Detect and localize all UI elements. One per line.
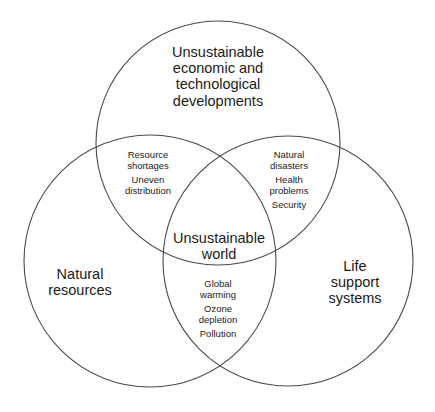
label-line: systems <box>328 290 381 306</box>
center-line: Unsustainable <box>173 230 265 246</box>
item-line: shortages <box>125 161 171 172</box>
center-line: world <box>173 246 265 262</box>
item-line: depletion <box>199 315 238 326</box>
item-line: problems <box>269 186 308 197</box>
label-line: developments <box>172 93 264 109</box>
item-line: Pollution <box>199 329 238 340</box>
label-line: economic and <box>172 60 264 76</box>
intersection-top-left: Resource shortages Uneven distribution <box>125 150 171 197</box>
item-line: warming <box>199 290 238 301</box>
label-line: Life <box>328 258 381 274</box>
intersection-center: Unsustainable world <box>173 230 265 262</box>
intersection-left-right: Global warming Ozone depletion Pollution <box>199 279 238 340</box>
label-natural-resources: Natural resources <box>48 266 112 298</box>
label-line: technological <box>172 76 264 92</box>
label-line: resources <box>48 282 112 298</box>
label-line: Natural <box>48 266 112 282</box>
label-life-support-systems: Life support systems <box>328 258 381 307</box>
item-line: Security <box>269 200 308 211</box>
label-line: Unsustainable <box>172 44 264 60</box>
item-line: disasters <box>269 161 308 172</box>
item-line: distribution <box>125 186 171 197</box>
label-line: support <box>328 274 381 290</box>
label-economic-technological: Unsustainable economic and technological… <box>172 44 264 109</box>
intersection-top-right: Natural disasters Health problems Securi… <box>269 150 308 211</box>
